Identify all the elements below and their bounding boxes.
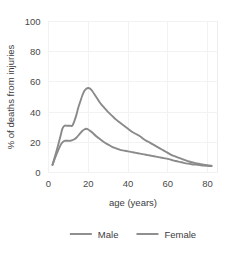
plot-background bbox=[49, 22, 218, 173]
legend-label-female: Female bbox=[164, 229, 196, 240]
chart-legend: MaleFemale bbox=[70, 229, 196, 240]
line-chart: 020406080100 020406080 % of deaths from … bbox=[0, 0, 246, 255]
chart-figure: 020406080100 020406080 % of deaths from … bbox=[0, 0, 246, 255]
y-tick-label: 100 bbox=[25, 16, 41, 27]
x-tick-label: 0 bbox=[46, 178, 51, 189]
x-axis-tick-labels: 020406080 bbox=[46, 178, 213, 189]
y-tick-label: 40 bbox=[30, 107, 41, 118]
legend-label-male: Male bbox=[98, 229, 119, 240]
plot-area-frame bbox=[49, 22, 218, 173]
y-tick-label: 20 bbox=[30, 137, 41, 148]
x-tick-label: 20 bbox=[83, 178, 94, 189]
y-tick-label: 80 bbox=[30, 46, 41, 57]
x-axis-title: age (years) bbox=[109, 197, 157, 208]
y-axis-tick-labels: 020406080100 bbox=[25, 16, 41, 178]
x-tick-label: 60 bbox=[163, 178, 174, 189]
y-axis-title: % of deaths from injuries bbox=[5, 44, 16, 149]
y-tick-label: 0 bbox=[35, 167, 40, 178]
x-tick-label: 80 bbox=[202, 178, 213, 189]
y-tick-label: 60 bbox=[30, 76, 41, 87]
x-tick-label: 40 bbox=[123, 178, 134, 189]
